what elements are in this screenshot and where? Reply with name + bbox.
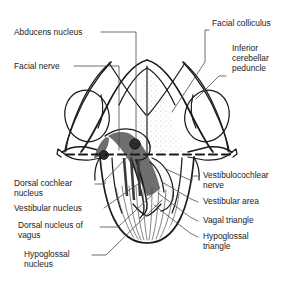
label-hypoglossal-triangle-line1: Hypoglossal — [203, 231, 249, 241]
cerebellar-peduncle-left-lateral — [65, 62, 111, 152]
label-dorsal-cochlear-nucleus-line2: nucleus — [14, 188, 72, 198]
label-abducens-nucleus-text: Abducens nucleus — [14, 27, 82, 37]
label-facial-colliculus-text: Facial colliculus — [212, 18, 271, 28]
label-hypoglossal-triangle-line2: triangle — [203, 241, 249, 251]
cerebellar-peduncle-right-lateral — [183, 62, 229, 152]
label-vestibulocochlear-nerve: Vestibulocochlear nerve — [203, 170, 269, 190]
label-facial-colliculus: Facial colliculus — [212, 18, 271, 28]
label-inferior-cerebellar-peduncle-line3: peduncle — [232, 63, 269, 73]
label-abducens-nucleus: Abducens nucleus — [14, 27, 82, 37]
label-facial-nerve-text: Facial nerve — [14, 61, 60, 71]
lateral-recess-right — [188, 147, 232, 152]
label-dorsal-nucleus-of-vagus-line2: vagus — [18, 230, 83, 240]
cuneate-tubercle-right — [194, 157, 199, 180]
label-vestibular-nucleus: Vestibular nucleus — [14, 203, 82, 213]
lateral-tip-left — [57, 149, 62, 157]
label-vestibular-area: Vestibular area — [203, 196, 259, 206]
label-dorsal-nucleus-of-vagus: Dorsal nucleus of vagus — [18, 220, 83, 240]
label-dorsal-cochlear-nucleus-line1: Dorsal cochlear — [14, 178, 72, 188]
abducens-nucleus-dot — [130, 139, 140, 149]
label-vestibular-area-text: Vestibular area — [203, 196, 259, 206]
lateral-tip-right — [232, 149, 237, 157]
label-vestibulocochlear-nerve-line2: nerve — [203, 180, 269, 190]
facial-colliculus-stipple — [134, 70, 184, 152]
label-dorsal-cochlear-nucleus: Dorsal cochlear nucleus — [14, 178, 72, 198]
label-vestibulocochlear-nerve-line1: Vestibulocochlear — [203, 170, 269, 180]
label-facial-nerve: Facial nerve — [14, 61, 60, 71]
medulla-inner-left — [112, 158, 122, 213]
label-hypoglossal-nucleus-line1: Hypoglossal — [24, 249, 70, 259]
label-hypoglossal-triangle: Hypoglossal triangle — [203, 231, 249, 251]
label-hypoglossal-nucleus-line2: nucleus — [24, 259, 70, 269]
superior-cerebellar-peduncle-left-outline — [66, 62, 111, 151]
label-dorsal-nucleus-of-vagus-line1: Dorsal nucleus of — [18, 220, 83, 230]
superior-cerebellar-peduncle-right-outline — [183, 62, 228, 151]
label-inferior-cerebellar-peduncle: Inferior cerebellar peduncle — [232, 43, 269, 74]
label-hypoglossal-nucleus: Hypoglossal nucleus — [24, 249, 70, 269]
label-inferior-cerebellar-peduncle-line1: Inferior — [232, 43, 269, 53]
cuneate-tubercle-left — [95, 157, 100, 180]
label-vagal-triangle: Vagal triangle — [203, 215, 254, 225]
label-vagal-triangle-text: Vagal triangle — [203, 215, 254, 225]
label-inferior-cerebellar-peduncle-line2: cerebellar — [232, 53, 269, 63]
label-vestibular-nucleus-text: Vestibular nucleus — [14, 203, 82, 213]
